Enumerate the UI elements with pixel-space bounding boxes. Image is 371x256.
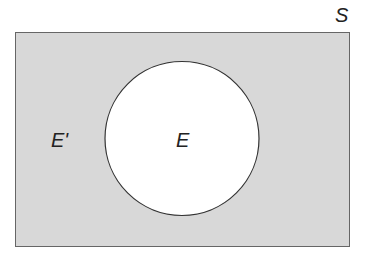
complement-label: E' (51, 129, 69, 151)
venn-diagram: S E E' (0, 0, 371, 256)
event-label: E (176, 129, 190, 151)
sample-space-label: S (335, 4, 349, 26)
